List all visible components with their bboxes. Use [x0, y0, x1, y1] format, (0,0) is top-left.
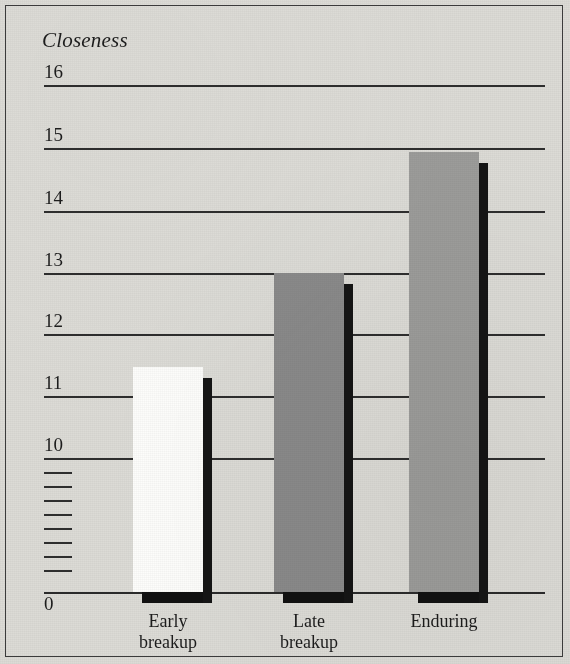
figure-border — [5, 5, 563, 657]
chart-figure: Closeness 161514131211100 Early breakupL… — [0, 0, 570, 664]
